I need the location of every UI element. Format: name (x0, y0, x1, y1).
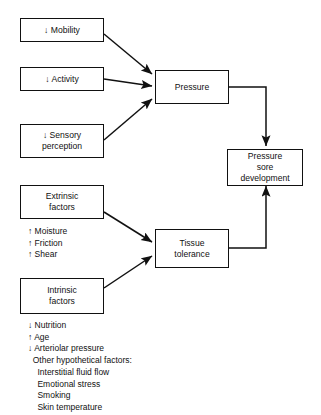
node-extrinsic-factors[interactable]: Extrinsic factors (20, 185, 104, 219)
node-activity-label: ↓ Activity (45, 74, 78, 85)
node-intrinsic-factors[interactable]: Intrinsic factors (20, 278, 104, 314)
node-activity[interactable]: ↓ Activity (20, 67, 104, 91)
intrinsic-factors-list: ↓ Nutrition ↑ Age ↓ Arteriolar pressure … (28, 320, 208, 414)
node-tissue-tolerance[interactable]: Tissue tolerance (155, 229, 229, 268)
node-pressure-sore-development[interactable]: Pressure sore development (227, 149, 303, 186)
edge-activity-to-pressure (104, 79, 152, 86)
node-pressure[interactable]: Pressure (155, 70, 229, 104)
diagram-canvas: ↓ Mobility ↓ Activity ↓ Sensory percepti… (0, 0, 321, 415)
node-mobility-label: ↓ Mobility (44, 25, 80, 36)
edge-pressure-to-pressure-sore (229, 87, 266, 146)
node-sensory-perception[interactable]: ↓ Sensory perception (20, 124, 104, 158)
node-pressure-sore-development-label: Pressure sore development (240, 151, 289, 184)
extrinsic-factors-list: ↑ Moisture ↑ Friction ↑ Shear (28, 226, 128, 261)
edge-tissue-tolerance-to-pressure-sore (229, 186, 266, 248)
node-intrinsic-factors-label: Intrinsic factors (47, 285, 77, 307)
node-tissue-tolerance-label: Tissue tolerance (174, 238, 209, 260)
edge-mobility-to-pressure (104, 34, 152, 74)
node-pressure-label: Pressure (175, 82, 209, 93)
node-sensory-perception-label: ↓ Sensory perception (42, 130, 82, 152)
edge-sensory-to-pressure (104, 99, 152, 140)
node-extrinsic-factors-label: Extrinsic factors (46, 191, 78, 213)
node-mobility[interactable]: ↓ Mobility (20, 18, 104, 42)
